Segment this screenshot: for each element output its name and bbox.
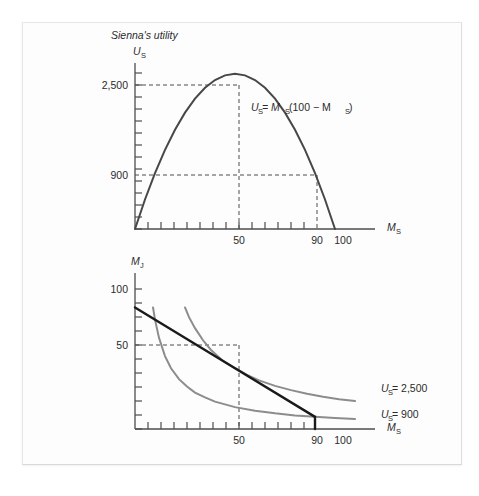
indifference-curve-panel: M J bbox=[23, 251, 461, 461]
chart-title: Sienna's utility bbox=[111, 29, 179, 41]
y-axis-label-top: U S bbox=[133, 45, 146, 60]
y-tick-label-2500: 2,500 bbox=[102, 79, 128, 91]
y-tick-marks-top bbox=[135, 73, 142, 229]
svg-text:M: M bbox=[387, 221, 396, 233]
x-axis-label-bottom: M S bbox=[387, 421, 401, 436]
svg-text:U: U bbox=[133, 45, 141, 57]
svg-text:= M: = M bbox=[262, 101, 280, 113]
legend-item-2500: U S = 2,500 bbox=[381, 382, 427, 397]
x-tick-marks-bottom bbox=[148, 422, 304, 429]
budget-line bbox=[135, 307, 315, 416]
figure-page: Sienna's utility U S bbox=[0, 0, 479, 496]
x-tick-label-90-top: 90 bbox=[311, 234, 323, 246]
svg-text:S: S bbox=[141, 51, 146, 60]
svg-text:): ) bbox=[349, 101, 353, 113]
curve-equation-label: U S = M S (100 − M S ) bbox=[251, 101, 353, 116]
x-tick-label-100-top: 100 bbox=[334, 234, 352, 246]
x-tick-label-90-bottom: 90 bbox=[311, 434, 323, 446]
x-tick-label-100-bottom: 100 bbox=[334, 434, 352, 446]
y-tick-label-900: 900 bbox=[110, 169, 128, 181]
y-tick-label-100-bottom: 100 bbox=[110, 283, 128, 295]
svg-text:S: S bbox=[396, 227, 401, 236]
x-tick-label-50-bottom: 50 bbox=[233, 434, 245, 446]
y-tick-label-50-bottom: 50 bbox=[116, 339, 128, 351]
indifference-curve-900 bbox=[153, 307, 355, 419]
svg-text:M: M bbox=[131, 255, 140, 267]
svg-text:(100 − M: (100 − M bbox=[289, 101, 331, 113]
x-tick-marks-top bbox=[148, 222, 304, 229]
utility-curve-panel: Sienna's utility U S bbox=[23, 23, 461, 251]
svg-text:= 900: = 900 bbox=[392, 408, 419, 420]
svg-text:S: S bbox=[396, 427, 401, 436]
svg-text:= 2,500: = 2,500 bbox=[392, 382, 427, 394]
x-tick-label-50-top: 50 bbox=[233, 234, 245, 246]
utility-parabola-curve bbox=[135, 74, 335, 229]
figure-card: Sienna's utility U S bbox=[22, 22, 462, 465]
x-axis-label-top: M S bbox=[387, 221, 401, 236]
svg-text:J: J bbox=[140, 261, 144, 270]
y-axis-label-bottom: M J bbox=[131, 255, 144, 270]
